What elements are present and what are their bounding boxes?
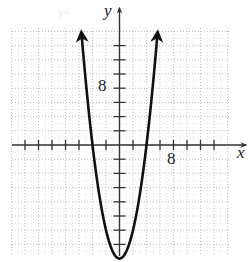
y-axis — [114, 8, 126, 256]
x-axis — [12, 140, 246, 150]
y-axis-label: y — [102, 1, 112, 20]
x-axis-label: x — [236, 143, 245, 162]
y-tick-label-8: 8 — [98, 76, 107, 95]
x-tick-label-8: 8 — [167, 149, 176, 168]
faint-watermark: y= — [58, 6, 70, 18]
parabola-graph: y= y x 8 8 — [0, 0, 249, 262]
grid — [12, 28, 231, 256]
